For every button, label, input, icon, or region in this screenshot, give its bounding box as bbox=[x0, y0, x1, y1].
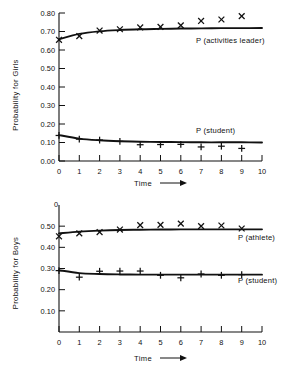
y-axis-tick-label: 0.40 bbox=[41, 243, 55, 252]
y-axis-tick-label: 0.70 bbox=[41, 27, 55, 36]
x-axis-tick-label: 6 bbox=[179, 338, 183, 347]
x-axis-tick-label: 4 bbox=[138, 167, 142, 176]
y-axis-title-boys: Probability for Boys bbox=[11, 237, 20, 309]
y-axis-tick-label: 0.20 bbox=[41, 120, 55, 129]
x-axis-tick-label: 3 bbox=[118, 338, 122, 347]
y-axis-tick-label-partial: 0 bbox=[54, 200, 58, 209]
x-axis-tick-label: 8 bbox=[219, 338, 223, 347]
x-axis-tick-label: 10 bbox=[258, 338, 266, 347]
y-axis-tick-label: 0.30 bbox=[41, 264, 55, 273]
y-axis-tick-label: 0.30 bbox=[41, 101, 55, 110]
boys-chart-svg: 0.100.200.300.400.500 012345678910 P (at… bbox=[0, 185, 303, 375]
probability-figure: 0.000.100.200.300.400.500.600.700.80 012… bbox=[0, 0, 303, 375]
axis-ticks-boys bbox=[59, 226, 262, 332]
x-axis-title-boys: Time bbox=[134, 354, 152, 363]
y-axis-tick-label: 0.40 bbox=[41, 83, 55, 92]
x-axis-tick-labels-girls: 012345678910 bbox=[57, 167, 266, 176]
y-axis-tick-label: 0.00 bbox=[41, 157, 55, 166]
x-axis-tick-label: 2 bbox=[98, 338, 102, 347]
y-axis-tick-label: 0.50 bbox=[41, 222, 55, 231]
x-axis-tick-label: 5 bbox=[158, 338, 162, 347]
x-axis-tick-label: 1 bbox=[77, 167, 81, 176]
y-axis-tick-label: 0.60 bbox=[41, 46, 55, 55]
series-label-student-girls: P (student) bbox=[196, 126, 235, 135]
x-axis-tick-label: 4 bbox=[138, 338, 142, 347]
x-axis-tick-label: 7 bbox=[199, 338, 203, 347]
y-axis-tick-label: 0.10 bbox=[41, 307, 55, 316]
x-axis-tick-label: 7 bbox=[199, 167, 203, 176]
y-axis-tick-labels-girls: 0.000.100.200.300.400.500.600.700.80 bbox=[41, 9, 55, 166]
chart-panel-girls: 0.000.100.200.300.400.500.600.700.80 012… bbox=[0, 0, 303, 190]
x-axis-arrow-boys bbox=[160, 355, 187, 361]
x-axis-tick-label: 6 bbox=[179, 167, 183, 176]
x-axis-tick-label: 0 bbox=[57, 167, 61, 176]
y-axis-tick-label: 0.10 bbox=[41, 138, 55, 147]
y-axis-tick-labels-boys: 0.100.200.300.400.500 bbox=[41, 200, 58, 316]
x-axis-tick-label: 8 bbox=[219, 167, 223, 176]
series-label-activities-leader: P (activities leader) bbox=[196, 36, 265, 45]
x-axis-tick-label: 3 bbox=[118, 167, 122, 176]
x-axis-tick-label: 2 bbox=[98, 167, 102, 176]
x-axis-tick-label: 1 bbox=[77, 338, 81, 347]
x-axis-tick-label: 9 bbox=[240, 338, 244, 347]
x-axis-tick-label: 10 bbox=[258, 167, 266, 176]
x-axis-tick-label: 0 bbox=[57, 338, 61, 347]
series-label-athlete: P (athlete) bbox=[238, 233, 275, 242]
girls-chart-svg: 0.000.100.200.300.400.500.600.700.80 012… bbox=[0, 0, 303, 190]
x-axis-tick-label: 9 bbox=[240, 167, 244, 176]
y-axis-tick-label: 0.20 bbox=[41, 285, 55, 294]
y-axis-tick-label: 0.80 bbox=[41, 9, 55, 18]
x-axis-tick-labels-boys: 012345678910 bbox=[57, 338, 266, 347]
x-axis-tick-label: 5 bbox=[158, 167, 162, 176]
chart-panel-boys: 0.100.200.300.400.500 012345678910 P (at… bbox=[0, 185, 303, 375]
series-label-student-boys: P (student) bbox=[238, 276, 277, 285]
y-axis-tick-label: 0.50 bbox=[41, 64, 55, 73]
fitted-curve-athlete bbox=[59, 229, 262, 233]
y-axis-title-girls: Probability for Girls bbox=[11, 59, 20, 131]
